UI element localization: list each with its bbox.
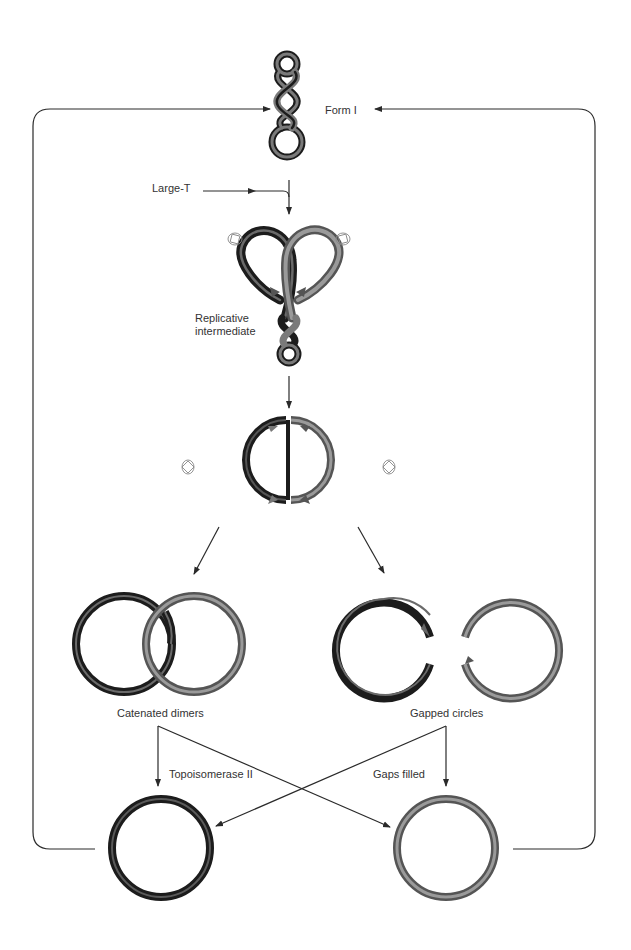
- replicative-label-line1: Replicative: [195, 312, 256, 325]
- feedback-loop-right: [375, 109, 595, 849]
- replication-cycle-diagram: [0, 0, 631, 950]
- large-t-arrow: [203, 180, 289, 214]
- closed-light-circle: [397, 799, 495, 897]
- arrow-to-gapped-circles: [358, 527, 384, 573]
- catenated-dimers-label: Catenated dimers: [117, 707, 204, 720]
- gapped-circles-label: Gapped circles: [410, 707, 483, 720]
- replicative-label-line2: intermediate: [195, 325, 256, 338]
- gapped-circles: [336, 598, 559, 698]
- large-t-label: Large-T: [152, 182, 191, 195]
- gaps-filled-label: Gaps filled: [373, 768, 425, 781]
- late-replicative-intermediate: [246, 420, 331, 504]
- enzyme-icon-left-upper: [228, 233, 242, 245]
- topoisomerase-label: Topoisomerase II: [169, 768, 253, 781]
- catenated-dimers: [76, 596, 242, 692]
- replicative-intermediate: [241, 230, 339, 363]
- replicative-intermediate-label: Replicative intermediate: [195, 312, 256, 338]
- enzyme-icon-right-mid: [383, 460, 395, 474]
- enzyme-icon-left-mid: [182, 460, 194, 474]
- closed-dark-circle: [112, 799, 210, 897]
- arrow-to-catenated-dimers: [194, 527, 219, 574]
- form-i-label: Form I: [325, 104, 357, 117]
- form-i-supercoil: [272, 54, 302, 157]
- feedback-loop-left: [33, 109, 270, 849]
